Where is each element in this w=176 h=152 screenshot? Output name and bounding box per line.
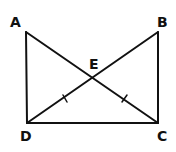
- label-e: E: [89, 56, 99, 72]
- geometry-diagram: A B E D C: [0, 0, 176, 152]
- label-c: C: [157, 128, 167, 144]
- label-a: A: [10, 14, 21, 30]
- segment-ad: [26, 32, 27, 123]
- label-d: D: [20, 128, 32, 144]
- label-b: B: [157, 14, 168, 30]
